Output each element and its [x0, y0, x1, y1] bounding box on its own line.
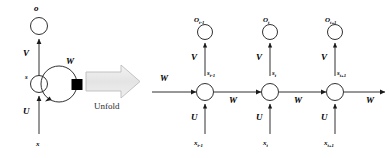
unfolded-state-label-1: st-1 [207, 70, 215, 77]
unfolded-state-node-1 [197, 84, 214, 101]
unfolded-input-label-3: xt+1 [324, 140, 334, 147]
unfolded-output-label-2: Ot [263, 17, 269, 24]
unfolded-weight-w-label-2: W [294, 96, 302, 105]
unfolded-weight-u-label-3: U [321, 113, 328, 122]
unfolded-weight-v-label-2: V [256, 53, 262, 62]
folded-output-node [31, 18, 48, 35]
folded-output-label: o [34, 4, 39, 13]
unfolded-state-label-3: st+1 [337, 70, 346, 77]
unfolded-incoming-w-label: W [160, 74, 168, 83]
unfolded-network [152, 25, 385, 135]
unfolded-state-node-2 [262, 84, 279, 101]
unfolded-output-node-1 [198, 25, 213, 40]
unfolded-outgoing-w-label: W [366, 96, 374, 105]
unfold-block-arrow-icon [86, 65, 140, 98]
delay-square-icon [72, 79, 83, 90]
unfolded-weight-u-label-2: U [256, 113, 263, 122]
unfold-caption: Unfold [94, 101, 120, 111]
unfolded-weight-u-label-1: U [191, 113, 198, 122]
folded-network [31, 18, 83, 135]
folded-weight-w-label: W [66, 57, 74, 66]
unfolded-output-node-2 [263, 25, 278, 40]
folded-weight-v-label: V [23, 49, 29, 58]
unfolded-state-label-2: st [272, 70, 276, 77]
rnn-unfold-figure: o V s U x W Unfold W W Ot-1 V st-1 U xt-… [0, 0, 389, 158]
unfolded-input-label-2: xt [263, 140, 268, 147]
folded-state-node [31, 76, 48, 93]
unfolded-output-node-3 [328, 25, 343, 40]
unfolded-weight-v-label-3: V [321, 53, 327, 62]
folded-recurrent-arrowhead [45, 96, 52, 101]
folded-weight-u-label: U [23, 107, 30, 116]
unfolded-output-label-3: Ot+1 [325, 17, 336, 24]
unfolded-state-node-3 [327, 84, 344, 101]
unfolded-input-label-1: xt-1 [194, 140, 203, 147]
unfolded-output-label-1: Ot-1 [194, 17, 204, 24]
unfolded-weight-w-label-1: W [229, 96, 237, 105]
unfolded-weight-v-label-1: V [191, 53, 197, 62]
folded-input-label: x [36, 141, 40, 148]
folded-state-label: s [25, 74, 28, 81]
